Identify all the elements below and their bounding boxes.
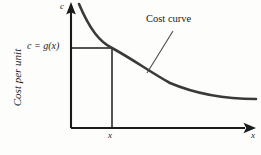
cost-curve-figure: Cost per unit c x x c = g(x) Cost curve xyxy=(0,0,261,155)
figure-canvas xyxy=(0,0,261,155)
cost-curve-label: Cost curve xyxy=(146,14,191,25)
y-axis-title: Cost per unit xyxy=(12,31,23,125)
y-axis-symbol-label: c xyxy=(60,2,64,11)
cost-curve-leader-line xyxy=(147,31,173,73)
x-axis-tick-label: x xyxy=(108,131,112,140)
x-axis-symbol-label: x xyxy=(251,131,255,140)
cost-value-label: c = g(x) xyxy=(27,41,59,51)
